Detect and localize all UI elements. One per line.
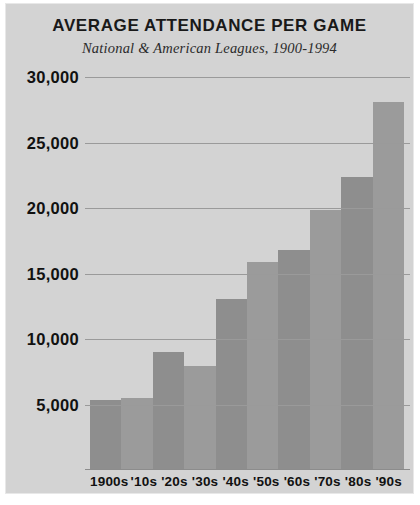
gridline: [85, 77, 410, 78]
gridline: [85, 143, 410, 144]
x-axis-tick-label: '10s: [129, 474, 160, 489]
y-axis-tick-label: 30,000: [27, 68, 79, 87]
bar-series: [90, 64, 404, 469]
bar: [90, 400, 121, 469]
title-block: AVERAGE ATTENDANCE PER GAME National & A…: [6, 4, 413, 57]
x-axis-tick-label: '30s: [190, 474, 221, 489]
x-axis-tick-label: '60s: [282, 474, 313, 489]
bar: [184, 366, 215, 469]
gridline: [85, 274, 410, 275]
y-axis-tick-label: 5,000: [36, 395, 79, 414]
bar: [247, 262, 278, 469]
y-axis-tick-label: 10,000: [27, 330, 79, 349]
gridline: [85, 339, 410, 340]
bar: [341, 177, 372, 469]
bar: [216, 299, 247, 469]
x-axis-tick-label: '50s: [251, 474, 282, 489]
x-axis-tick-label: '90s: [373, 474, 404, 489]
x-axis-tick-label: 1900s: [90, 474, 129, 489]
x-axis-tick-label: '70s: [312, 474, 343, 489]
y-axis-tick-label: 20,000: [27, 199, 79, 218]
gridline: [85, 405, 410, 406]
x-axis-tick-label: '40s: [220, 474, 251, 489]
bar: [278, 250, 309, 469]
gridline: [85, 208, 410, 209]
bar: [121, 398, 152, 469]
bar: [373, 102, 404, 469]
y-axis-tick-label: 25,000: [27, 133, 79, 152]
x-axis-tick-label: '20s: [159, 474, 190, 489]
x-axis-line: [85, 469, 410, 470]
chart-card: AVERAGE ATTENDANCE PER GAME National & A…: [5, 3, 414, 494]
y-axis-tick-label: 15,000: [27, 264, 79, 283]
plot-area: 5,00010,00015,00020,00025,00030,000: [85, 64, 410, 470]
chart-subtitle: National & American Leagues, 1900-1994: [6, 36, 413, 57]
x-axis-tick-label: '80s: [343, 474, 374, 489]
page-title: AVERAGE ATTENDANCE PER GAME: [6, 4, 413, 36]
bar: [153, 352, 184, 469]
x-axis-labels: 1900s'10s'20s'30s'40s'50s'60s'70s'80s'90…: [90, 474, 404, 489]
